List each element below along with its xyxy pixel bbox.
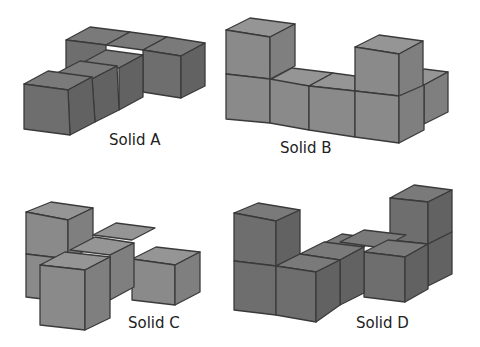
solids-diagram: [0, 0, 480, 347]
solid-c-figure: [26, 202, 200, 330]
solid-d-figure: [234, 185, 452, 322]
solid-c-label: Solid C: [128, 314, 180, 332]
solid-b-figure: [226, 18, 448, 143]
solid-a-figure: [24, 27, 205, 135]
solid-b-label: Solid B: [280, 139, 332, 157]
solid-a-label: Solid A: [109, 131, 161, 149]
solid-d-label: Solid D: [356, 314, 409, 332]
